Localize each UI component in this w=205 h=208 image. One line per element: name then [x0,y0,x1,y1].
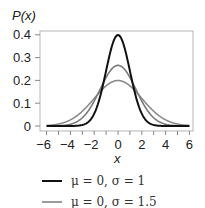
curve-sigma-2 [47,81,190,126]
y-axis-title: P(x) [12,8,36,23]
x-tick-label: 2 [138,137,145,152]
legend-label: μ = 0, σ = 1.5 [71,195,157,208]
x-tick-label: 6 [186,137,193,152]
x-tick-label: 4 [162,137,169,152]
plot-curves [47,35,190,126]
x-tick-label: −2 [84,137,99,152]
x-tick-label: −6 [36,137,51,152]
y-tick-label: 0.2 [13,73,31,88]
y-tick-label: 0.3 [13,50,31,65]
normal-distribution-chart: P(x) 00.10.20.30.4 −6−4−20246 x μ = 0, σ… [0,0,205,208]
y-axis: 00.10.20.30.4 [13,27,40,133]
x-tick-label: 0 [114,137,121,152]
x-tick-label: −4 [60,137,75,152]
curve-sigma-1-5 [47,65,190,126]
legend-label: μ = 0, σ = 1 [71,174,145,188]
x-axis: −6−4−20246 [36,131,193,152]
y-tick-label: 0.1 [13,96,31,111]
y-tick-label: 0.4 [13,27,31,42]
x-axis-title: x [113,151,121,166]
y-tick-label: 0 [24,119,31,134]
legend: μ = 0, σ = 1μ = 0, σ = 1.5 [42,174,157,208]
